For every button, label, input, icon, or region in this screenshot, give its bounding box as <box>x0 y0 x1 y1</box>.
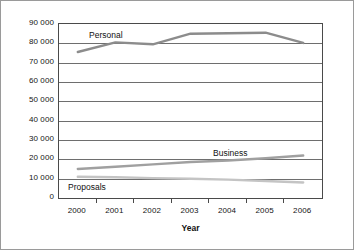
y-tick-label: 0 <box>1 193 54 201</box>
x-tick <box>208 199 209 203</box>
plot-area <box>58 23 323 199</box>
x-tick <box>246 199 247 203</box>
line-chart-figure: 010 00020 00030 00040 00050 00060 00070 … <box>0 0 354 250</box>
series-line-business <box>78 156 303 170</box>
y-axis-tick-labels: 010 00020 00030 00040 00050 00060 00070 … <box>1 1 54 250</box>
x-tick-label: 2001 <box>105 206 123 215</box>
series-label-proposals: Proposals <box>68 183 106 192</box>
x-tick-label: 2004 <box>218 206 236 215</box>
y-tick-label: 40 000 <box>1 116 54 124</box>
x-tick <box>133 199 134 203</box>
x-tick <box>171 199 172 203</box>
x-axis-tick-labels: 2000200120022003200420052006 <box>58 206 323 218</box>
series-label-business: Business <box>213 149 248 158</box>
y-tick-label: 10 000 <box>1 174 54 182</box>
x-axis-ticks <box>58 199 323 204</box>
y-tick-label: 20 000 <box>1 154 54 162</box>
x-tick-label: 2005 <box>256 206 274 215</box>
y-tick-label: 50 000 <box>1 96 54 104</box>
x-tick <box>283 199 284 203</box>
x-tick-label: 2000 <box>68 206 86 215</box>
x-tick-label: 2002 <box>143 206 161 215</box>
y-tick-label: 60 000 <box>1 77 54 85</box>
series-label-personal: Personal <box>89 31 123 40</box>
x-tick-label: 2003 <box>180 206 198 215</box>
y-tick-label: 80 000 <box>1 38 54 46</box>
x-axis-title: Year <box>58 223 323 233</box>
y-tick-label: 70 000 <box>1 58 54 66</box>
y-tick-label: 90 000 <box>1 19 54 27</box>
x-tick-label: 2006 <box>293 206 311 215</box>
y-tick-label: 30 000 <box>1 135 54 143</box>
series-line-proposals <box>78 177 303 183</box>
series-lines <box>59 24 322 198</box>
x-tick <box>96 199 97 203</box>
